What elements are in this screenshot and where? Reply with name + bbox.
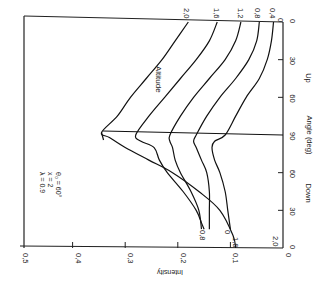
curve-label-up: 0,4	[268, 8, 277, 18]
chart: 00,10,20,30,40,5 030609060300 2,01,61,20…	[0, 0, 330, 286]
peak-drop-line	[102, 132, 104, 140]
param-theta: θ₀ = 60°	[55, 172, 62, 198]
intensity-tick-label: 0,2	[179, 253, 188, 263]
horizon-line	[103, 131, 283, 135]
curve-label-up: 1,6	[212, 8, 221, 18]
curve-altitude-0.4	[212, 22, 274, 229]
intensity-tick-label: 0	[284, 253, 293, 257]
intensity-axis-title: Intensity	[156, 268, 183, 276]
down-label: Down	[304, 183, 313, 202]
curves	[101, 22, 273, 248]
parameter-block: λ = 0.9 x = 2 θ₀ = 60°	[39, 172, 62, 198]
angle-tick-label: 30	[288, 57, 297, 65]
angle-axis-title: Angle (deg)	[305, 116, 314, 155]
intensity-tick-label: 0,4	[74, 253, 83, 263]
curve-altitude-1.6	[135, 22, 217, 229]
curve-label-down: 0,8	[198, 230, 207, 240]
curve-label-up: 0	[276, 18, 285, 22]
curve-label-down: 1,6	[231, 237, 240, 247]
curve-label-down: 0	[223, 230, 232, 234]
up-label: Up	[304, 73, 313, 83]
angle-tick-label: 60	[288, 170, 297, 178]
angle-axis: 030609060300	[278, 19, 297, 249]
intensity-tick-label: 0,3	[126, 253, 135, 263]
angle-tick-label: 90	[288, 132, 297, 140]
intensity-tick-label: 0,5	[21, 253, 30, 263]
param-x: x = 2	[47, 172, 54, 187]
curve-altitude-2.0	[101, 22, 235, 248]
intensity-tick-label: 0,1	[231, 253, 240, 263]
angle-tick-label: 60	[288, 94, 297, 102]
angle-tick-label: 30	[288, 207, 297, 215]
intensity-axis: 00,10,20,30,40,5	[21, 242, 293, 263]
curve-label-up: 0,8	[253, 8, 262, 18]
param-lambda: λ = 0.9	[39, 172, 46, 193]
legend-title: Altitude	[154, 66, 163, 93]
angle-tick-label: 0	[288, 245, 297, 249]
curve-label-up: 2,0	[182, 8, 191, 18]
curve-label-up: 1,2	[236, 8, 245, 18]
angle-tick-label: 0	[288, 19, 297, 23]
curve-label-down: 2,0	[271, 236, 280, 246]
